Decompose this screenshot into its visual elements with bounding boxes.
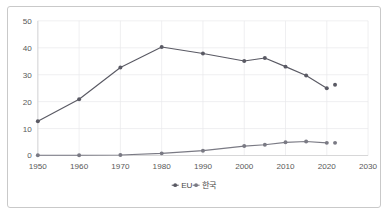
data-point-marker <box>304 140 308 144</box>
legend-label: EU <box>181 181 192 190</box>
data-point-marker <box>333 83 337 87</box>
series-line-path <box>38 142 327 156</box>
series-korea <box>36 140 337 158</box>
data-point-marker <box>36 119 40 123</box>
chart-plot-area: 01020304050 1950196019701980199020002010… <box>8 7 380 207</box>
x-tick-label: 1980 <box>153 162 172 171</box>
x-tick-label: 1990 <box>194 162 213 171</box>
series-line-path <box>38 47 327 121</box>
legend-item-eu[interactable]: EU <box>172 181 193 190</box>
legend-label: 한국 <box>202 181 217 190</box>
x-tick-label: 2020 <box>318 162 337 171</box>
data-point-marker <box>242 59 246 63</box>
y-tick-label: 30 <box>23 71 33 80</box>
gridlines <box>38 21 368 156</box>
chart-legend: EU한국 <box>172 181 217 190</box>
y-axis-tick-labels: 01020304050 <box>23 17 33 161</box>
data-point-marker <box>325 86 329 90</box>
series-layer <box>36 45 337 157</box>
data-point-marker <box>118 153 122 157</box>
legend-swatch-marker <box>194 183 198 187</box>
x-tick-label: 1950 <box>29 162 48 171</box>
chart-frame: 01020304050 1950196019701980199020002010… <box>7 6 381 208</box>
data-point-marker <box>118 65 122 69</box>
legend-item-korea[interactable]: 한국 <box>193 181 217 190</box>
data-point-marker <box>242 144 246 148</box>
x-tick-label: 1970 <box>111 162 130 171</box>
data-point-marker <box>160 45 164 49</box>
data-point-marker <box>284 140 288 144</box>
x-tick-label: 2000 <box>235 162 254 171</box>
data-point-marker <box>284 65 288 69</box>
x-tick-label: 2010 <box>276 162 295 171</box>
data-point-marker <box>304 74 308 78</box>
y-tick-label: 10 <box>23 125 33 134</box>
data-point-marker <box>36 153 40 157</box>
data-point-marker <box>160 151 164 155</box>
x-axis-tick-labels: 195019601970198019902000201020202030 <box>29 162 378 171</box>
data-point-marker <box>333 141 337 145</box>
data-point-marker <box>263 56 267 60</box>
data-point-marker <box>263 143 267 147</box>
x-tick-label: 2030 <box>359 162 378 171</box>
y-tick-label: 40 <box>23 44 33 53</box>
data-point-marker <box>325 141 329 145</box>
line-chart: 01020304050 1950196019701980199020002010… <box>8 7 380 207</box>
legend-swatch-marker <box>173 183 177 187</box>
data-point-marker <box>77 97 81 101</box>
data-point-marker <box>201 51 205 55</box>
data-point-marker <box>201 149 205 153</box>
y-tick-label: 20 <box>23 98 33 107</box>
data-point-marker <box>77 153 81 157</box>
series-eu <box>36 45 337 123</box>
y-tick-label: 50 <box>23 17 33 26</box>
y-tick-label: 0 <box>27 152 32 161</box>
x-tick-label: 1960 <box>70 162 89 171</box>
